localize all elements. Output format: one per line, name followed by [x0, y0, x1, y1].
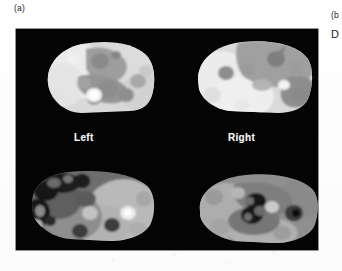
figure-panel-label-a: (a) — [14, 4, 25, 13]
figure-text-fragment-d: D — [331, 29, 339, 40]
side-label-left: Left — [74, 133, 94, 143]
slice-bottom-right — [194, 171, 318, 247]
figure-black-panel: Left Right — [16, 29, 318, 250]
side-label-right: Right — [228, 133, 255, 143]
slice-top-left — [38, 37, 162, 119]
slice-bottom-left — [28, 169, 160, 247]
figure-panel-label-b: (b — [331, 11, 339, 20]
slice-top-right — [192, 37, 316, 119]
